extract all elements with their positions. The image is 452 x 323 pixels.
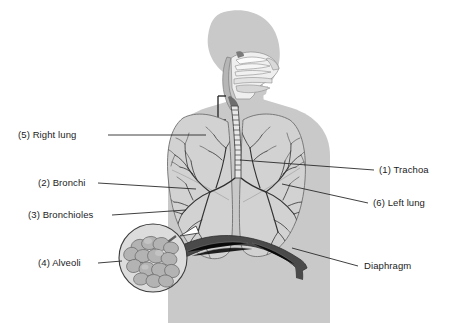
label-left-lung: (6) Left lung	[373, 197, 425, 209]
label-diaphragm: Diaphragm	[364, 260, 411, 272]
diagram-canvas: (5) Right lung (2) Bronchi (3) Bronchiol…	[0, 0, 452, 323]
label-bronchioles: (3) Bronchioles	[28, 209, 93, 221]
label-trachea: (1) Trachoa	[379, 164, 429, 176]
label-alveoli: (4) Alveoli	[38, 257, 81, 269]
label-right-lung: (5) Right lung	[18, 129, 76, 141]
leader-alveoli	[98, 261, 122, 263]
label-bronchi: (2) Bronchi	[38, 177, 86, 189]
respiratory-system-illustration	[0, 0, 452, 323]
